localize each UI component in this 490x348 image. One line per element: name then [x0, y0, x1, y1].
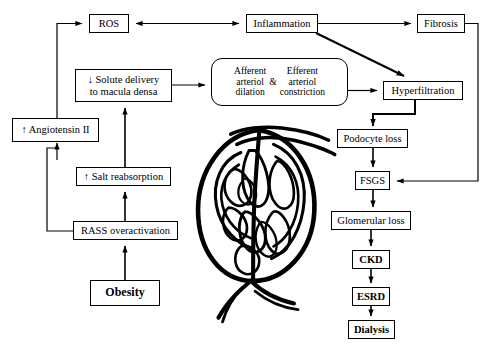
- flowchart-diagram: ROS Inflammation Fibrosis ↓ Solute deliv…: [0, 0, 490, 348]
- node-solute-delivery-text: ↓ Solute delivery to macula densa: [88, 74, 160, 98]
- node-arteriole-changes[interactable]: Afferent arteriol dilation & Efferent ar…: [211, 58, 348, 106]
- afferent-line3: dilation: [235, 87, 264, 98]
- node-solute-delivery-line2: to macula densa: [90, 86, 158, 98]
- node-ros[interactable]: ROS: [89, 14, 129, 33]
- node-dialysis-label: Dialysis: [354, 324, 389, 336]
- node-angiotensin-ii-label: ↑ Angiotensin II: [21, 124, 89, 136]
- node-dialysis[interactable]: Dialysis: [348, 320, 395, 339]
- node-fsgs[interactable]: FSGS: [355, 171, 390, 190]
- node-angiotensin-ii[interactable]: ↑ Angiotensin II: [12, 118, 99, 142]
- node-hyperfiltration[interactable]: Hyperfiltration: [383, 81, 463, 100]
- node-ckd[interactable]: CKD: [352, 250, 390, 269]
- efferent-line3: constriction: [280, 87, 325, 98]
- node-rass-overactivation[interactable]: RASS overactivation: [73, 221, 178, 240]
- node-fibrosis[interactable]: Fibrosis: [417, 14, 465, 33]
- node-podocyte-loss-label: Podocyte loss: [343, 133, 401, 145]
- node-fsgs-label: FSGS: [360, 175, 385, 187]
- node-arteriole-inner: Afferent arteriol dilation & Efferent ar…: [215, 66, 344, 99]
- ampersand-separator: &: [269, 77, 276, 88]
- node-ckd-label: CKD: [359, 254, 382, 266]
- node-rass-overactivation-label: RASS overactivation: [81, 225, 170, 237]
- node-inflammation-label: Inflammation: [253, 18, 310, 30]
- node-inflammation[interactable]: Inflammation: [246, 14, 318, 33]
- node-afferent-column: Afferent arteriol dilation: [234, 66, 266, 99]
- node-obesity-label: Obesity: [105, 286, 144, 299]
- node-glomerular-loss[interactable]: Glomerular loss: [331, 211, 411, 230]
- node-glomerular-loss-label: Glomerular loss: [337, 215, 404, 227]
- node-solute-delivery-line1: ↓ Solute delivery: [88, 74, 160, 86]
- node-fibrosis-label: Fibrosis: [424, 18, 458, 30]
- node-salt-reabsorption[interactable]: ↑ Salt reabsorption: [76, 167, 171, 186]
- node-efferent-column: Efferent arteriol constriction: [280, 66, 325, 99]
- node-esrd[interactable]: ESRD: [352, 287, 390, 306]
- glomerulus-illustration: [0, 0, 490, 348]
- node-salt-reabsorption-label: ↑ Salt reabsorption: [84, 171, 163, 183]
- node-ros-label: ROS: [99, 18, 119, 30]
- afferent-line1: Afferent: [234, 66, 266, 77]
- node-esrd-label: ESRD: [357, 291, 385, 303]
- node-solute-delivery[interactable]: ↓ Solute delivery to macula densa: [75, 69, 172, 102]
- efferent-line1: Efferent: [287, 66, 318, 77]
- node-hyperfiltration-label: Hyperfiltration: [392, 85, 455, 97]
- node-obesity[interactable]: Obesity: [90, 280, 160, 306]
- node-podocyte-loss[interactable]: Podocyte loss: [337, 129, 408, 148]
